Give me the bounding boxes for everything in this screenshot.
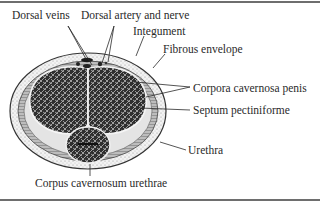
label-dorsal-veins: Dorsal veins (12, 9, 70, 21)
corpus-cavernosum-urethrae (66, 127, 110, 163)
label-fibrous-envelope: Fibrous envelope (163, 43, 243, 55)
corpora-cavernosa-penis (30, 67, 147, 134)
label-corpora-cavernosa-penis: Corpora cavernosa penis (193, 82, 307, 94)
label-dorsal-artery-nerve: Dorsal artery and nerve (81, 9, 189, 21)
label-corpus-cavernosum-urethrae: Corpus cavernosum urethrae (35, 177, 167, 189)
label-septum-pectiniforme: Septum pectiniforme (193, 104, 290, 116)
label-urethra: Urethra (188, 144, 223, 156)
label-integument: Integument (133, 25, 185, 37)
